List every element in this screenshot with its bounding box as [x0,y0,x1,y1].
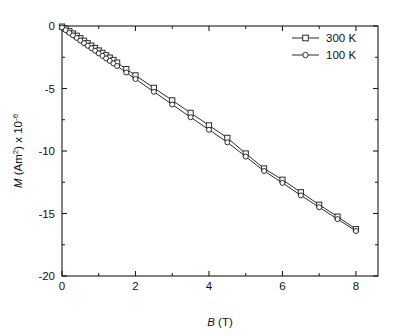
y-tick-label: -5 [45,83,55,95]
legend-label: 300 K [326,32,356,44]
data-point-marker [225,140,230,145]
y-tick-label: -20 [38,270,55,282]
svg-text:M (Am2) x 10-6: M (Am2) x 10-6 [11,113,25,188]
data-point-marker [335,217,340,222]
x-tick-label: 0 [59,280,65,292]
x-tick-label: 6 [279,280,285,292]
data-point-marker [262,169,267,174]
magnetization-vs-field-chart: 02468 0-5-10-15-20 300 K100 K B (T) M (A… [0,0,400,336]
x-axis-title: B (T) [207,316,233,328]
data-point-marker [188,115,193,120]
data-point-marker [170,102,175,107]
y-axis-title: M (Am2) x 10-6 [11,113,25,188]
data-point-marker [317,205,322,210]
chart-figure: 02468 0-5-10-15-20 300 K100 K B (T) M (A… [0,0,400,336]
data-point-marker [303,35,309,41]
data-point-marker [151,89,156,94]
y-tick-label: -15 [38,208,55,220]
data-point-marker [133,77,138,82]
data-point-marker [124,70,129,75]
data-point-marker [243,154,248,159]
y-tick-label: 0 [49,20,55,32]
data-point-marker [303,52,308,57]
legend-label: 100 K [326,49,356,61]
x-tick-label: 2 [132,280,138,292]
data-point-marker [115,64,120,69]
data-point-marker [353,229,358,234]
data-point-marker [298,193,303,198]
x-tick-label: 4 [206,280,213,292]
svg-text:B (T): B (T) [207,316,233,328]
data-point-marker [280,180,285,185]
x-tick-label: 8 [353,280,359,292]
y-tick-label: -10 [38,145,55,157]
data-point-marker [206,127,211,132]
